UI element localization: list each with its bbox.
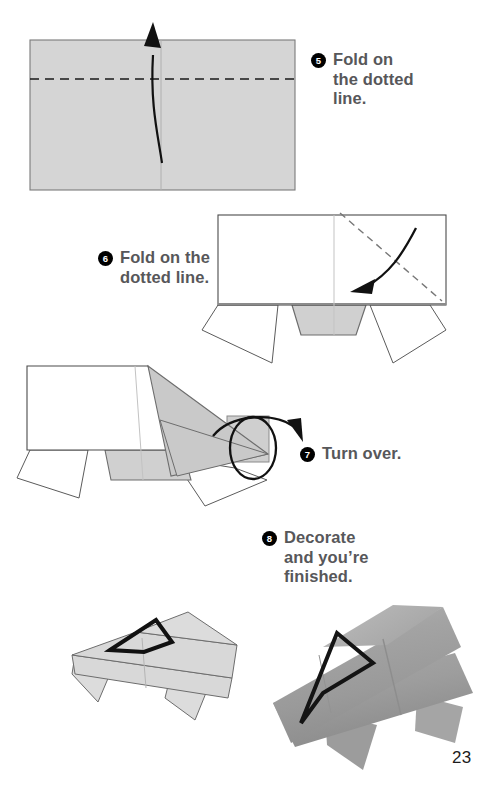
paper-rectangle: [30, 40, 295, 190]
right-leg-flap: [370, 305, 446, 363]
step-6-badge: 6: [98, 251, 113, 266]
fold-arrow-head: [144, 22, 161, 48]
step-7-text: 7 Turn over.: [300, 444, 475, 464]
paper-rectangle: [218, 215, 446, 305]
turn-over-arrow-head: [287, 418, 303, 442]
step-8-label: Decorate and you’re finished.: [284, 528, 368, 587]
step-5-text: 5 Fold on the dotted line.: [311, 50, 486, 109]
step-7-badge: 7: [300, 447, 315, 462]
step-6-text: 6 Fold on the dotted line.: [98, 248, 248, 287]
step-5-label: Fold on the dotted line.: [333, 50, 414, 109]
step-5-badge: 5: [311, 53, 326, 68]
step-7-label: Turn over.: [322, 444, 402, 464]
step-8-text: 8 Decorate and you’re finished.: [262, 528, 452, 587]
page-number: 23: [452, 748, 472, 768]
step-8-badge: 8: [262, 531, 277, 546]
left-leg-flap: [17, 450, 88, 498]
center-gray-trapezoid: [292, 305, 366, 335]
step-5-diagram: [0, 0, 320, 210]
step-7-diagram: [15, 358, 305, 508]
step-8-finished-diagram: [60, 570, 275, 730]
step-6-label: Fold on the dotted line.: [120, 248, 210, 287]
left-leg-flap: [202, 305, 278, 363]
book-page: 5 Fold on the dotted line. 6 Fold on the…: [0, 0, 495, 792]
